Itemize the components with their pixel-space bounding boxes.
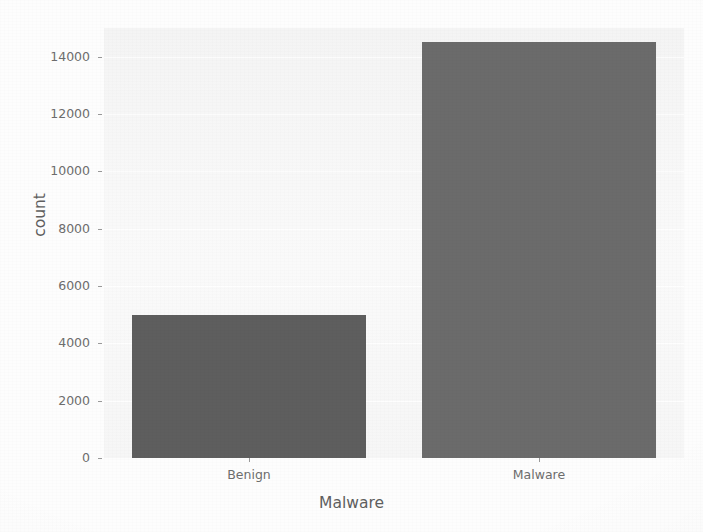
y-tick-label: 14000 <box>20 51 90 64</box>
bar-benign[interactable] <box>132 315 365 458</box>
y-tick-mark <box>98 114 102 115</box>
x-tick-label: Benign <box>227 469 271 482</box>
y-tick-mark <box>98 343 102 344</box>
y-tick-label: 6000 <box>20 280 90 293</box>
y-tick-mark <box>98 171 102 172</box>
y-tick-mark <box>98 229 102 230</box>
y-tick-mark <box>98 458 102 459</box>
y-tick-mark <box>98 57 102 58</box>
y-tick-label: 10000 <box>20 165 90 178</box>
y-tick-label: 8000 <box>20 223 90 236</box>
plot-area <box>104 28 684 458</box>
x-tick-mark <box>249 458 250 462</box>
bar-malware[interactable] <box>422 42 655 458</box>
y-tick-mark <box>98 401 102 402</box>
x-tick-mark <box>539 458 540 462</box>
bar-chart-figure: count Malware 14000120001000080006000400… <box>0 0 703 532</box>
y-tick-label: 0 <box>20 452 90 465</box>
y-tick-label: 12000 <box>20 108 90 121</box>
y-tick-mark <box>98 286 102 287</box>
x-tick-label: Malware <box>513 469 565 482</box>
x-axis-label: Malware <box>0 494 703 512</box>
y-tick-label: 2000 <box>20 395 90 408</box>
y-tick-label: 4000 <box>20 337 90 350</box>
